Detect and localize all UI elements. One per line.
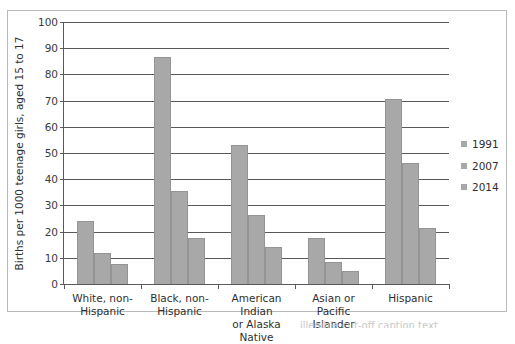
- y-axis-tick-mark: [60, 127, 64, 128]
- y-axis-title: Births per 1000 teenage girls, aged 15 t…: [12, 22, 26, 285]
- y-axis-tick-mark: [60, 153, 64, 154]
- legend-label: 1991: [472, 139, 499, 150]
- x-axis-tick-mark: [372, 284, 373, 289]
- y-axis-tick-label: 0: [51, 279, 58, 290]
- bar[interactable]: [342, 271, 359, 284]
- legend-item[interactable]: 2007: [461, 161, 499, 172]
- y-axis-tick-mark: [60, 22, 64, 23]
- x-axis-tick-label: American Indianor Alaska Native: [218, 292, 295, 344]
- x-axis-tick-mark: [295, 284, 296, 289]
- x-axis-tick-label-line: or Alaska Native: [218, 318, 295, 344]
- bar[interactable]: [77, 221, 94, 284]
- clipped-caption: illegible cut-off caption text: [300, 320, 510, 328]
- y-axis-tick-label: 60: [45, 122, 58, 133]
- x-axis-tick-label-line: Hispanic: [64, 305, 141, 318]
- bar[interactable]: [265, 247, 282, 284]
- x-axis-tick-label: Black, non-Hispanic: [141, 292, 218, 318]
- y-axis-tick-label: 10: [45, 253, 58, 264]
- legend-swatch-icon: [461, 184, 467, 190]
- x-axis-tick-label-line: Hispanic: [141, 305, 218, 318]
- bar-group: [231, 22, 282, 284]
- y-axis-tick-label: 50: [45, 148, 58, 159]
- x-axis-tick-label-line: Black, non-: [141, 292, 218, 305]
- x-axis-tick-mark: [218, 284, 219, 289]
- x-axis-tick-label-line: American Indian: [218, 292, 295, 318]
- legend-label: 2014: [472, 182, 499, 193]
- y-axis-tick-mark: [60, 48, 64, 49]
- y-axis-tick-label: 20: [45, 226, 58, 237]
- plot-area: 0102030405060708090100White, non-Hispani…: [63, 22, 449, 285]
- x-axis-tick-label-line: White, non-: [64, 292, 141, 305]
- legend-item[interactable]: 2014: [461, 182, 499, 193]
- bar[interactable]: [171, 191, 188, 284]
- bar[interactable]: [325, 262, 342, 284]
- x-axis-tick-mark: [141, 284, 142, 289]
- chart-legend: 199120072014: [461, 139, 499, 193]
- y-axis-tick-label: 100: [38, 17, 58, 28]
- y-axis-tick-mark: [60, 232, 64, 233]
- bar-group: [385, 22, 436, 284]
- bar[interactable]: [248, 215, 265, 284]
- legend-swatch-icon: [461, 141, 467, 147]
- bar[interactable]: [188, 238, 205, 284]
- legend-swatch-icon: [461, 163, 467, 169]
- bar-group: [77, 22, 128, 284]
- bar[interactable]: [154, 57, 171, 284]
- bar[interactable]: [94, 253, 111, 284]
- bar[interactable]: [308, 238, 325, 284]
- x-axis-tick-label: Hispanic: [372, 292, 449, 305]
- y-axis-tick-label: 30: [45, 200, 58, 211]
- x-axis-tick-label-line: Asian or Pacific: [295, 292, 372, 318]
- x-axis-tick-mark: [64, 284, 65, 289]
- y-axis-tick-mark: [60, 205, 64, 206]
- y-axis-tick-label: 40: [45, 174, 58, 185]
- bar[interactable]: [385, 99, 402, 284]
- y-axis-tick-label: 90: [45, 43, 58, 54]
- bar[interactable]: [402, 163, 419, 284]
- bar[interactable]: [111, 264, 128, 284]
- clipped-caption-text: illegible cut-off caption text: [300, 320, 510, 328]
- y-axis-tick-mark: [60, 258, 64, 259]
- y-axis-tick-label: 70: [45, 95, 58, 106]
- bar-group: [308, 22, 359, 284]
- bar[interactable]: [231, 145, 248, 284]
- bar-group: [154, 22, 205, 284]
- bar[interactable]: [419, 228, 436, 284]
- x-axis-tick-mark: [449, 284, 450, 289]
- y-axis-tick-mark: [60, 101, 64, 102]
- legend-item[interactable]: 1991: [461, 139, 499, 150]
- x-axis-tick-label: White, non-Hispanic: [64, 292, 141, 318]
- y-axis-tick-label: 80: [45, 69, 58, 80]
- y-axis-tick-mark: [60, 179, 64, 180]
- x-axis-tick-label-line: Hispanic: [372, 292, 449, 305]
- legend-label: 2007: [472, 161, 499, 172]
- y-axis-tick-mark: [60, 74, 64, 75]
